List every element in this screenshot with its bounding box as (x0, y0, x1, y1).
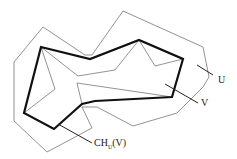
convex-hull-ch-u-v (24, 40, 183, 129)
outer-set-u (14, 11, 209, 152)
label-u: U (218, 75, 225, 85)
label-ch-u-v: CHU(V) (94, 138, 126, 150)
leader-line-ch (58, 124, 92, 143)
label-v: V (201, 98, 208, 108)
diagram-canvas: U V CHU(V) (0, 0, 237, 159)
leader-line-u (197, 65, 213, 75)
label-ch-main: CH (94, 137, 108, 148)
diagram-svg (0, 0, 237, 159)
label-ch-arg: (V) (112, 137, 126, 148)
leader-line-v (165, 84, 198, 103)
